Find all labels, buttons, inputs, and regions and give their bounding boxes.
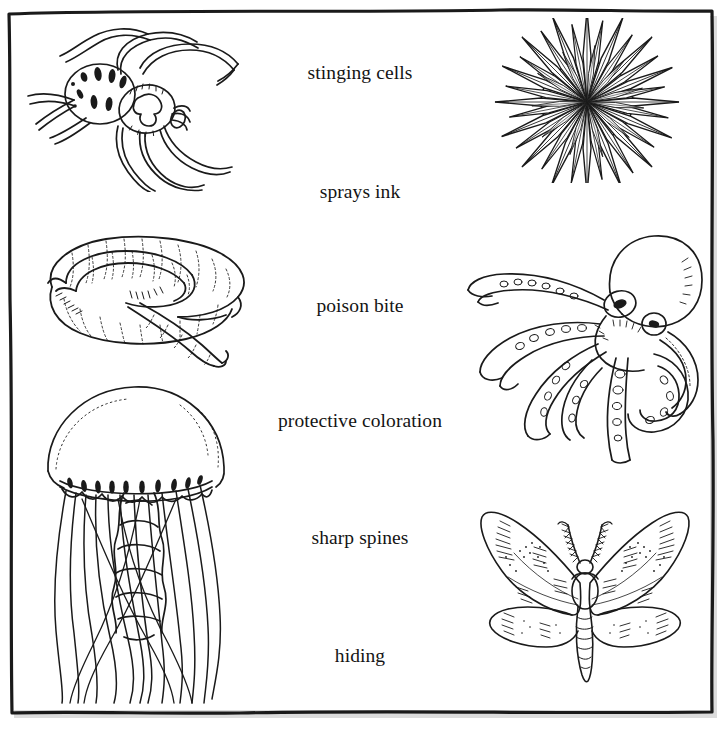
label-hiding[interactable]: hiding [240, 645, 480, 667]
label-poison-bite[interactable]: poison bite [240, 295, 480, 317]
worksheet-page: stinging cells sprays ink poison bite pr… [0, 0, 727, 735]
label-sprays-ink[interactable]: sprays ink [240, 181, 480, 203]
sea-urchin-illustration [480, 18, 695, 183]
earthworm-illustration [22, 225, 262, 370]
label-stinging-cells[interactable]: stinging cells [240, 62, 480, 84]
right-figure-column [450, 0, 720, 735]
label-protective-coloration[interactable]: protective coloration [240, 410, 480, 432]
jellyfish-illustration [30, 375, 240, 705]
moth-illustration [460, 495, 710, 695]
label-column: stinging cells sprays ink poison bite pr… [240, 0, 480, 735]
label-sharp-spines[interactable]: sharp spines [240, 527, 480, 549]
octopus-illustration [458, 232, 708, 467]
spider-illustration [22, 22, 247, 192]
left-figure-column [8, 0, 258, 735]
